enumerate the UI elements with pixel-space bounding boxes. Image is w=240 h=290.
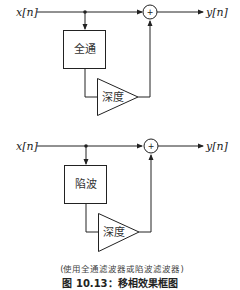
- gain-to-sum-line: [139, 155, 151, 232]
- gain-label: 深度: [103, 225, 125, 239]
- figure-title: 图 10.13：移相效果框图: [62, 277, 177, 289]
- filter-label: 陷波: [75, 177, 97, 191]
- sum-symbol: +: [147, 8, 154, 17]
- notch-diagram: x[n] 陷波 深度 + y[n]: [16, 139, 229, 252]
- filter-to-gain-line: [85, 69, 97, 97]
- filter-label: 全通: [74, 42, 96, 56]
- input-label: x[n]: [16, 6, 39, 19]
- phaser-block-diagrams: x[n] 全通 深度 + y[n] x[n] 陷波 深度 + y[n] (使用全…: [0, 0, 240, 290]
- sum-symbol: +: [148, 142, 155, 151]
- gain-label: 深度: [102, 90, 124, 104]
- gain-to-sum-line: [138, 21, 150, 97]
- allpass-diagram: x[n] 全通 深度 + y[n]: [16, 5, 229, 116]
- filter-to-gain-line: [86, 204, 98, 232]
- output-label: y[n]: [205, 6, 229, 19]
- input-label: x[n]: [16, 140, 39, 153]
- diagram-caption: (使用全通滤波器或陷波滤波器): [60, 264, 184, 274]
- output-label: y[n]: [205, 140, 229, 153]
